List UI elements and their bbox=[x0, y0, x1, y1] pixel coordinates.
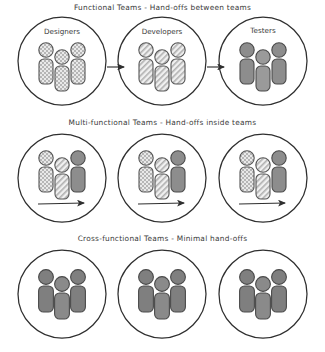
row-cross-functional-teams: Cross-functional Teams - Minimal hand-of… bbox=[0, 231, 325, 352]
figure-group-cross-3 bbox=[240, 270, 287, 319]
figure-group-multi-1 bbox=[39, 151, 85, 199]
person-figure bbox=[55, 277, 70, 319]
person-figure bbox=[71, 43, 85, 84]
person-figure bbox=[171, 43, 185, 84]
person-figure bbox=[71, 270, 86, 312]
person-figure bbox=[256, 50, 270, 91]
team-topology-diagram: Functional Teams - Hand-offs between tea… bbox=[0, 0, 325, 352]
person-figure bbox=[155, 277, 170, 319]
person-figure bbox=[39, 43, 53, 84]
internal-handoff-arrow-2 bbox=[138, 203, 184, 204]
figure-group-cross-1 bbox=[39, 270, 86, 319]
figure-group-developers bbox=[139, 43, 185, 91]
person-figure bbox=[272, 151, 286, 192]
person-figure bbox=[256, 158, 270, 199]
person-figure bbox=[171, 270, 186, 312]
person-figure bbox=[139, 270, 154, 312]
figure-group-cross-2 bbox=[139, 270, 186, 319]
person-figure bbox=[155, 50, 169, 91]
person-figure bbox=[256, 277, 271, 319]
circle-label-developers: Developers bbox=[142, 27, 183, 36]
figure-group-designers bbox=[39, 43, 85, 91]
circle-label-testers: Testers bbox=[249, 26, 276, 35]
row-functional-teams: Functional Teams - Hand-offs between tea… bbox=[0, 0, 325, 118]
person-figure bbox=[39, 270, 54, 312]
person-figure bbox=[171, 151, 185, 192]
row-multi-functional-teams: Multi-functional Teams - Hand-offs insid… bbox=[0, 115, 325, 235]
person-figure bbox=[272, 270, 287, 312]
internal-handoff-arrow-1 bbox=[38, 203, 84, 204]
person-figure bbox=[155, 158, 169, 199]
person-figure bbox=[139, 151, 153, 192]
person-figure bbox=[55, 158, 69, 199]
row-canvas-cross-functional bbox=[0, 231, 325, 352]
circle-label-designers: Designers bbox=[44, 27, 80, 36]
person-figure bbox=[240, 43, 254, 84]
person-figure bbox=[240, 270, 255, 312]
person-figure bbox=[55, 50, 69, 91]
figure-group-multi-3 bbox=[240, 151, 286, 199]
row-canvas-functional: Designers Developers Testers bbox=[0, 0, 325, 118]
figure-group-testers bbox=[240, 43, 286, 91]
row-canvas-multi-functional bbox=[0, 115, 325, 235]
person-figure bbox=[39, 151, 53, 192]
person-figure bbox=[71, 151, 85, 192]
internal-handoff-arrow-3 bbox=[239, 203, 285, 204]
figure-group-multi-2 bbox=[139, 151, 185, 199]
person-figure bbox=[272, 43, 286, 84]
person-figure bbox=[240, 151, 254, 192]
person-figure bbox=[139, 43, 153, 84]
